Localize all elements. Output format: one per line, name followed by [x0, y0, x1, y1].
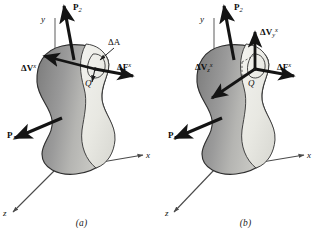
label-deltaFx-b: ΔFx	[277, 62, 291, 72]
cut-face-a	[81, 44, 116, 168]
label-P1-b: P1	[168, 131, 177, 141]
label-P2-a: P2	[73, 3, 82, 13]
z-axis-line	[13, 170, 55, 212]
label-Q-b: Q	[248, 79, 255, 88]
label-deltaVx-a: ΔVx	[21, 63, 36, 73]
figure-panel-b: P2 P1 ΔVyx ΔVzx ΔFx Q y x z (b)	[164, 0, 327, 244]
label-P2-b: P2	[234, 3, 243, 13]
label-deltaVyx-b: ΔVyx	[260, 27, 278, 38]
axis-label-x-b: x	[307, 150, 311, 160]
axis-label-x-a: x	[146, 150, 150, 160]
cut-face-b	[241, 44, 276, 168]
figure-panel-a: P2 P1 ΔVx ΔFx ΔA Q y x z (a)	[0, 0, 163, 244]
panel-caption-b: (b)	[164, 218, 327, 228]
label-Q-a: Q	[85, 79, 92, 88]
figure-pair: P2 P1 ΔVx ΔFx ΔA Q y x z (a)	[0, 0, 327, 244]
axis-label-y-a: y	[41, 14, 45, 24]
label-deltaFx-a: ΔFx	[117, 62, 131, 72]
z-axis-line	[174, 170, 214, 212]
label-deltaA-a: ΔA	[108, 38, 120, 47]
axis-label-z-b: z	[165, 208, 169, 218]
panel-caption-a: (a)	[0, 218, 163, 228]
axis-label-y-b: y	[200, 14, 204, 24]
label-P1-a: P1	[7, 131, 16, 141]
axis-label-z-a: z	[3, 208, 7, 218]
label-deltaVzx-b: ΔVzx	[195, 62, 213, 73]
panel-a-canvas	[0, 0, 163, 244]
panel-b-canvas	[164, 0, 327, 244]
